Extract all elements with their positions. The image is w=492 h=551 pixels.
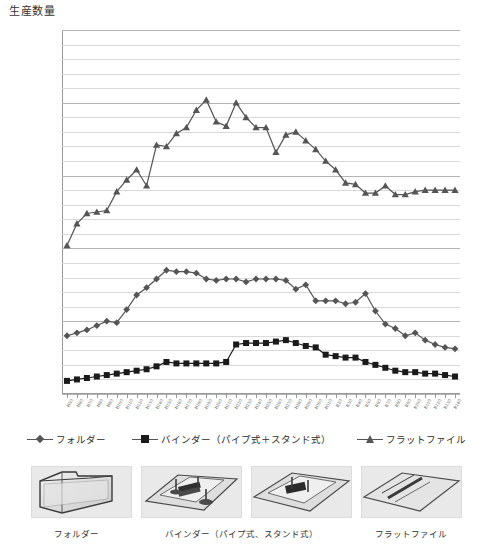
data-point: [133, 166, 140, 172]
x-axis-tick-label: R7/3: [384, 398, 393, 408]
x-axis-tick-label: R14/3: [453, 398, 463, 410]
data-point: [223, 122, 230, 128]
data-point: [173, 130, 180, 136]
caption-folder: フォルダー: [16, 527, 136, 539]
series-diamond: [64, 267, 459, 352]
data-point: [333, 353, 339, 359]
x-axis-tick-label: R4/3: [354, 398, 363, 408]
x-axis-tick-label: R3/3: [344, 398, 353, 408]
caption-flat-file: フラットファイル: [346, 527, 476, 539]
x-axis-tick-label: H16/3: [174, 398, 184, 410]
data-point: [64, 378, 70, 384]
x-axis-tick: [236, 394, 237, 398]
legend-label: バインダー（パイプ式＋スタンド式）: [161, 432, 331, 446]
data-point: [452, 374, 458, 380]
series-triangle: [63, 96, 458, 248]
data-point: [273, 339, 279, 345]
data-point: [173, 268, 180, 275]
data-point: [283, 337, 289, 343]
x-axis-tick: [186, 394, 187, 398]
legend-marker-triangle-icon: [357, 434, 383, 444]
x-axis-tick-label: H9/3: [105, 398, 114, 408]
data-point: [134, 368, 140, 374]
caption-binder: バインダー（パイプ式、スタンド式）: [136, 527, 346, 539]
data-point: [263, 276, 270, 283]
data-point: [183, 268, 190, 275]
x-axis-tick: [246, 394, 247, 398]
data-point: [452, 345, 459, 352]
data-point: [183, 124, 190, 130]
data-point: [312, 297, 319, 304]
x-axis-tick: [97, 394, 98, 398]
x-axis-tick: [107, 394, 108, 398]
x-axis-tick: [455, 394, 456, 398]
x-axis-tick-label: H30/3: [313, 398, 323, 410]
data-point: [83, 327, 90, 334]
x-axis-tick-label: H11/3: [124, 398, 134, 410]
x-axis-tick: [117, 394, 118, 398]
x-axis-tick-label: H23/3: [244, 398, 254, 410]
data-point: [173, 360, 179, 366]
x-axis-tick: [137, 394, 138, 398]
data-point: [402, 369, 408, 375]
data-point: [253, 276, 260, 283]
x-axis-tick-label: H21/3: [224, 398, 234, 410]
data-point: [74, 376, 80, 382]
data-point: [362, 359, 368, 365]
data-point: [144, 366, 150, 372]
x-axis-tick-label: H10/3: [114, 398, 124, 410]
x-axis-tick-label: H24/3: [254, 398, 264, 410]
data-point: [302, 281, 309, 288]
data-point: [203, 276, 210, 283]
data-point: [233, 276, 240, 283]
legend-item[interactable]: フラットファイル: [357, 432, 466, 446]
series-line: [67, 100, 455, 246]
pipe-binder-photo: [141, 466, 242, 518]
folder-photo: [31, 466, 132, 518]
gridline-major: [62, 394, 460, 395]
x-axis-tick: [147, 394, 148, 398]
data-point: [292, 128, 299, 134]
x-axis-tick: [67, 394, 68, 398]
data-point: [153, 141, 160, 147]
data-point: [382, 182, 389, 188]
x-axis-tick-label: R6/3: [374, 398, 383, 408]
y-axis-title: 生産数量: [9, 2, 55, 18]
x-axis-tick: [216, 394, 217, 398]
flat-file-photo: [361, 466, 462, 518]
x-axis-tick: [77, 394, 78, 398]
legend-item[interactable]: フォルダー: [27, 432, 106, 446]
chart-legend: フォルダーバインダー（パイプ式＋スタンド式）フラットファイル: [0, 432, 492, 446]
x-axis-tick-label: H25/3: [263, 398, 273, 410]
data-point: [223, 359, 229, 365]
x-axis-tick: [87, 394, 88, 398]
data-point: [293, 340, 299, 346]
data-point: [74, 329, 81, 336]
x-axis-tick-label: H26/3: [273, 398, 283, 410]
data-point: [432, 341, 439, 348]
x-axis-tick: [276, 394, 277, 398]
data-point: [63, 242, 70, 248]
x-axis-tick-label: H14/3: [154, 398, 164, 410]
x-axis-tick-label: R13/3: [443, 398, 453, 410]
legend-item[interactable]: バインダー（パイプ式＋スタンド式）: [132, 432, 331, 446]
data-point: [193, 360, 199, 366]
data-point: [392, 368, 398, 374]
x-axis-tick: [336, 394, 337, 398]
x-axis-tick: [296, 394, 297, 398]
data-point: [93, 322, 100, 329]
x-axis-tick-label: H28/3: [293, 398, 303, 410]
data-point: [243, 278, 250, 285]
x-axis-tick: [226, 394, 227, 398]
data-point: [412, 369, 418, 375]
legend-marker-square-icon: [132, 434, 158, 444]
data-point: [323, 352, 329, 358]
x-axis-tick: [405, 394, 406, 398]
data-point: [104, 372, 110, 378]
data-point: [442, 344, 449, 351]
x-axis-tick: [375, 394, 376, 398]
x-axis-tick-label: H20/3: [214, 398, 224, 410]
x-axis-tick-label: H18/3: [194, 398, 204, 410]
x-axis-tick-label: H5/3: [66, 398, 75, 408]
data-point: [313, 344, 319, 350]
